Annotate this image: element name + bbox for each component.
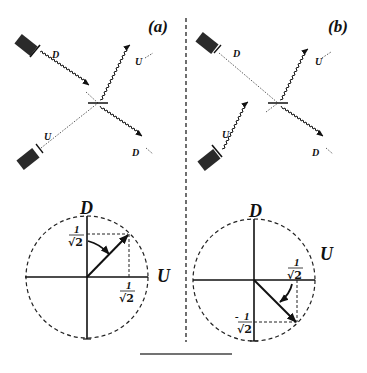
tick-label-d: 1 √2 — [68, 223, 84, 249]
svg-text:-: - — [235, 310, 239, 322]
panel-a-label: (a) — [148, 17, 168, 36]
axis-u-label: U — [157, 266, 171, 286]
wavy-beam-u-out — [100, 45, 130, 100]
dotted-beam-u-in-cont — [266, 103, 278, 112]
dotted-beam-d-out-cont — [146, 148, 153, 154]
svg-text:1: 1 — [294, 256, 300, 268]
wavy-beam-u-in — [222, 102, 248, 149]
label-source-u: U — [44, 131, 52, 142]
svg-text:√2: √2 — [287, 269, 302, 282]
photon-source-d-icon — [14, 34, 40, 57]
tick-label-u: 1 √2 — [119, 279, 135, 305]
wavy-beam-d-out — [281, 106, 323, 136]
label-source-u: U — [222, 129, 230, 140]
axis-d-label: D — [79, 198, 93, 218]
wavy-beam-d-in — [40, 51, 89, 85]
state-vector — [87, 235, 128, 277]
svg-text:1: 1 — [126, 279, 132, 291]
svg-text:1: 1 — [74, 223, 80, 235]
photon-source-u-icon — [16, 144, 43, 170]
panel-b-label: (b) — [328, 17, 348, 36]
label-source-d: D — [232, 48, 240, 59]
photon-source-d-icon — [195, 32, 221, 54]
axis-d-label: D — [248, 201, 262, 221]
panel-b-state-diagram: D U 1 √2 - 1 √2 — [193, 201, 334, 341]
label-out-d: D — [311, 147, 319, 158]
wavy-beam-u-out — [280, 49, 308, 100]
dotted-beam-d-in — [219, 53, 278, 103]
beam-splitter-figure: (a) D U U D (b) — [0, 0, 367, 373]
dotted-beam-d-in-cont — [86, 92, 98, 103]
svg-text:√2: √2 — [68, 236, 83, 249]
panel-a-interferometer: (a) D U U D — [14, 17, 167, 170]
dotted-beam-d-out-cont — [326, 148, 333, 154]
photon-source-u-icon — [197, 145, 222, 171]
label-out-u: U — [135, 56, 143, 67]
dotted-beam-u-out-cont — [145, 53, 153, 58]
svg-text:√2: √2 — [119, 292, 134, 305]
tick-label-u: 1 √2 — [287, 256, 303, 282]
axis-u-label: U — [320, 244, 334, 264]
tick-label-d: - 1 √2 — [235, 310, 252, 336]
label-out-d: D — [131, 147, 139, 158]
label-out-u: U — [315, 56, 323, 67]
dotted-beam-u-out-cont — [322, 52, 331, 58]
label-source-d: D — [51, 49, 59, 60]
svg-text:1: 1 — [244, 310, 250, 322]
panel-a-state-diagram: D U 1 √2 1 √2 — [25, 198, 171, 339]
rotation-arc — [88, 241, 109, 254]
state-vector — [254, 280, 296, 322]
rotation-arc — [280, 284, 292, 302]
wavy-beam-d-out — [100, 106, 142, 136]
panel-b-interferometer: (b) D U U D — [195, 17, 347, 171]
svg-text:√2: √2 — [237, 323, 252, 336]
